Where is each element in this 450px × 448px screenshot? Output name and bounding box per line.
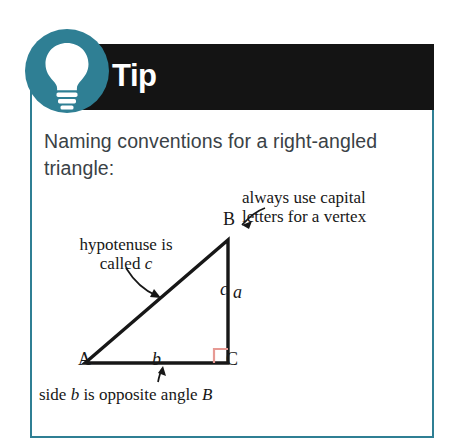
annotation-side-b-symbol-B: B: [202, 385, 212, 404]
tip-banner-label: Tip: [112, 54, 156, 98]
vertex-label-C: C: [226, 350, 238, 369]
annotation-hypotenuse-line1: hypotenuse is: [60, 235, 192, 254]
vertex-label-A: A: [78, 350, 91, 369]
vertex-label-B: B: [223, 210, 235, 229]
annotation-hypotenuse-line2-symbol: c: [145, 254, 153, 273]
tip-heading: Naming conventions for a right-angled tr…: [44, 128, 394, 182]
right-angled-triangle-figure: always use capital letters for a vertex …: [30, 180, 434, 420]
side-label-a: a: [233, 283, 242, 302]
tip-callout-page: Tip Naming conventions for a right-angle…: [0, 0, 450, 448]
annotation-hypotenuse-line2: called c: [60, 254, 192, 273]
annotation-hypotenuse-line2-text: called: [100, 254, 145, 273]
annotation-vertex-note: always use capital letters for a vertex: [242, 188, 366, 226]
annotation-side-b-middle: is opposite angle: [79, 385, 202, 404]
annotation-side-b-prefix: side: [39, 385, 71, 404]
lightbulb-icon: [25, 29, 109, 113]
annotation-hypotenuse-note: hypotenuse is called c: [60, 235, 192, 273]
annotation-vertex-line1: always use capital: [242, 188, 366, 207]
side-label-b: b: [152, 350, 161, 369]
annotation-vertex-line2: letters for a vertex: [242, 207, 366, 226]
annotation-side-b-symbol-b: b: [71, 385, 80, 404]
annotation-side-b-note: side b is opposite angle B: [39, 385, 212, 404]
side-label-c: c: [220, 280, 228, 299]
